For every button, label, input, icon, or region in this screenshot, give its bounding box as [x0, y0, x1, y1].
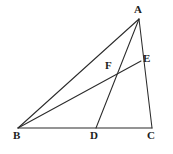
vertex-label-e: E	[143, 53, 150, 64]
vertex-label-f: F	[105, 60, 112, 71]
vertex-label-b: B	[13, 130, 20, 141]
segment-AD	[96, 19, 139, 128]
segment-BE	[18, 61, 141, 128]
segment-AC	[139, 19, 152, 128]
segment-BA	[18, 19, 139, 128]
vertex-label-a: A	[134, 4, 142, 15]
vertex-label-c: C	[147, 130, 155, 141]
vertex-label-d: D	[90, 130, 98, 141]
geometry-figure: A B C D E F	[0, 0, 173, 154]
